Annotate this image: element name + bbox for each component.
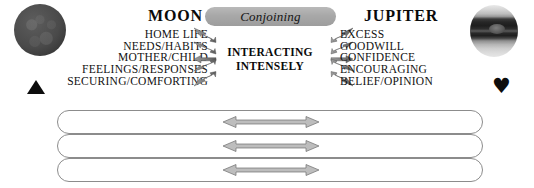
jupiter-title: JUPITER [364, 6, 438, 26]
astrology-aspect-diagram: ♥ MOON Conjoining JUPITER HOME LIFE NEED… [0, 0, 534, 188]
jupiter-keyword-item: BELIEF/OPINION [340, 76, 510, 88]
jupiter-keyword-item: EXCESS [340, 29, 510, 41]
moon-arrow-1 [194, 28, 216, 43]
double-headed-arrow [223, 115, 319, 129]
stadium-bar-group [57, 110, 485, 182]
jupiter-keyword-list: EXCESS GOODWILL CONFIDENCE ENCOURAGING B… [340, 29, 510, 87]
header-row: MOON Conjoining JUPITER [0, 6, 534, 28]
moon-arrow-5 [194, 72, 216, 87]
moon-title: MOON [148, 6, 203, 26]
double-headed-arrow [223, 139, 319, 153]
aspect-label: Conjoining [240, 9, 301, 25]
moon-keyword-list: HOME LIFE NEEDS/HABITS MOTHER/CHILD FEEL… [30, 29, 208, 87]
moon-keyword-item: HOME LIFE [30, 29, 208, 41]
aspect-pill: Conjoining [205, 7, 336, 26]
moon-keyword-item: SECURING/COMFORTING [30, 76, 208, 88]
double-headed-arrow [223, 163, 319, 177]
jupiter-keyword-item: ENCOURAGING [340, 64, 510, 76]
moon-keyword-item: FEELINGS/RESPONSES [30, 64, 208, 76]
